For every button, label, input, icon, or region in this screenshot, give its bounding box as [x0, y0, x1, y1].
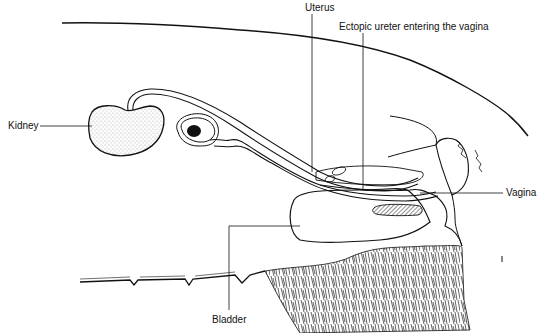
- ovary-follicle: [187, 125, 201, 137]
- label-ectopic-ureter: Ectopic ureter entering the vagina: [339, 21, 489, 32]
- pubic-bone: [373, 204, 422, 215]
- rectum-upper: [390, 116, 437, 145]
- hind-limb-fur: [265, 246, 470, 333]
- label-kidney: Kidney: [8, 120, 39, 131]
- label-uterus: Uterus: [305, 2, 334, 13]
- ureter: [128, 89, 418, 186]
- kidney-shape: [89, 106, 164, 156]
- anatomy-diagram: [0, 0, 544, 333]
- label-bladder: Bladder: [212, 314, 246, 325]
- anus-tissue: [436, 138, 468, 195]
- label-vagina: Vagina: [506, 187, 536, 198]
